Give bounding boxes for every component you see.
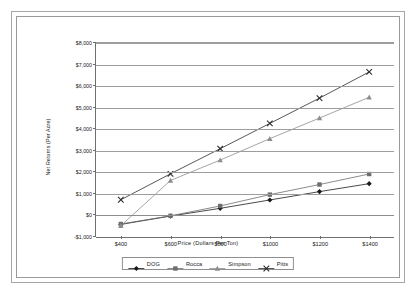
legend-key-square-icon [167, 259, 184, 268]
data-point-triangle [366, 95, 371, 100]
data-point-diamond [134, 266, 139, 271]
y-tick-label: $3,000 [76, 148, 92, 154]
y-tick-mark [93, 42, 96, 43]
x-tick-mark [320, 236, 321, 239]
y-gridline [96, 86, 394, 87]
data-point-square [173, 266, 177, 270]
chart-outer-frame: Net Returns (Per Acre) $8,000$7,000$6,00… [11, 11, 405, 283]
x-tick-mark [221, 236, 222, 239]
legend-label: Pitts [277, 261, 288, 267]
y-gridline [96, 43, 394, 44]
chart-screenshot: Net Returns (Per Acre) $8,000$7,000$6,00… [0, 0, 418, 295]
data-point-cross-x [366, 69, 372, 75]
y-tick-mark [93, 214, 96, 215]
y-tick-label: $4,000 [76, 126, 92, 132]
y-gridline [96, 194, 394, 195]
legend-label: Rocca [186, 261, 202, 267]
y-gridline [96, 108, 394, 109]
series-line [121, 184, 369, 225]
y-gridline [96, 237, 394, 238]
y-tick-label: $5,000 [76, 105, 92, 111]
legend-key-cross-x-icon [258, 259, 275, 268]
y-tick-mark [93, 171, 96, 172]
legend-entry-simpson[interactable]: Simpson [209, 259, 250, 268]
data-point-square [317, 182, 321, 186]
series-line [121, 97, 369, 225]
legend-label: Simpson [228, 261, 250, 267]
x-axis-title: Price (Dollars Per Ton) [17, 240, 399, 246]
legend-entry-pitts[interactable]: Pitts [258, 259, 288, 268]
series-rocca [119, 172, 372, 226]
chart-plot-wrapper: Net Returns (Per Acre) $8,000$7,000$6,00… [17, 17, 399, 277]
y-tick-mark [93, 64, 96, 65]
y-gridline [96, 215, 394, 216]
x-tick-mark [270, 236, 271, 239]
data-point-cross-x [267, 121, 273, 127]
legend-key-triangle-icon [209, 259, 226, 268]
legend-entry-dog[interactable]: DOG [128, 259, 160, 268]
data-point-square [218, 204, 222, 208]
legend-key-diamond-icon [128, 259, 145, 268]
y-tick-mark [93, 85, 96, 86]
y-tick-label: $0 [86, 212, 92, 218]
data-point-triangle [217, 157, 222, 162]
y-tick-label: $2,000 [76, 169, 92, 175]
y-gridline [96, 129, 394, 130]
data-point-cross-x [317, 95, 323, 101]
series-dog [118, 181, 372, 227]
plot-area: $8,000$7,000$6,000$5,000$4,000$3,000$2,0… [95, 42, 394, 236]
x-tick-mark [171, 236, 172, 239]
series-line [121, 174, 369, 224]
y-tick-mark [93, 128, 96, 129]
y-tick-label: $6,000 [76, 83, 92, 89]
y-gridline [96, 65, 394, 66]
data-point-triangle [267, 136, 272, 141]
y-axis-title: Net Returns (Per Acre) [45, 119, 51, 176]
chart-inner-frame: Net Returns (Per Acre) $8,000$7,000$6,00… [16, 16, 400, 278]
legend-entry-rocca[interactable]: Rocca [167, 259, 202, 268]
y-gridline [96, 172, 394, 173]
y-tick-mark [93, 236, 96, 237]
y-tick-label: $7,000 [76, 62, 92, 68]
data-point-diamond [367, 181, 372, 186]
y-tick-label: $1,000 [76, 191, 92, 197]
chart-legend: DOGRoccaSimpsonPitts [122, 257, 294, 270]
y-tick-label: $8,000 [76, 40, 92, 46]
x-tick-mark [370, 236, 371, 239]
x-tick-mark [121, 236, 122, 239]
data-point-triangle [317, 115, 322, 120]
series-simpson [118, 95, 372, 228]
y-tick-mark [93, 107, 96, 108]
series-pitts [118, 69, 372, 202]
legend-label: DOG [147, 261, 160, 267]
series-layer [96, 43, 394, 236]
y-tick-mark [93, 193, 96, 194]
data-point-cross-x [118, 197, 124, 203]
data-point-diamond [267, 197, 272, 202]
data-point-triangle [168, 178, 173, 183]
series-line [121, 72, 369, 200]
y-tick-mark [93, 150, 96, 151]
y-gridline [96, 151, 394, 152]
